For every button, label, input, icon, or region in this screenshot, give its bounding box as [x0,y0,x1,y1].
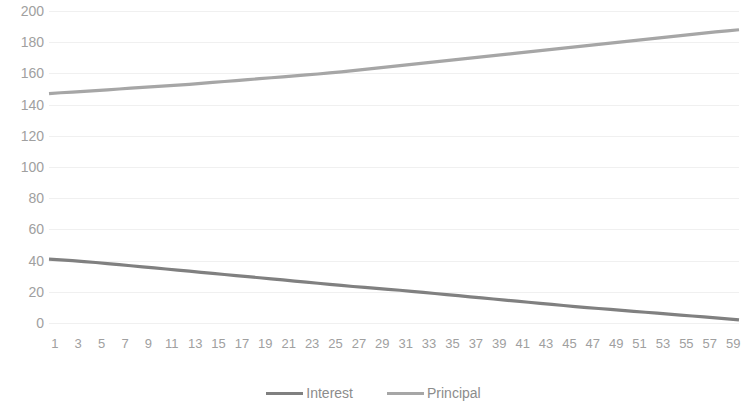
x-tick-label: 29 [375,336,389,352]
series-line-interest [49,259,739,320]
legend-entry-interest[interactable]: Interest [266,385,353,401]
y-tick-label: 80 [2,191,44,205]
x-tick-label: 21 [282,336,296,352]
x-tick-label: 15 [211,336,225,352]
x-tick-label: 43 [539,336,553,352]
x-tick-label: 23 [305,336,319,352]
x-tick-label: 33 [422,336,436,352]
line-chart: 200180160140120100806040200 135791113151… [0,0,747,411]
chart-legend: InterestPrincipal [0,382,747,404]
legend-label: Principal [427,385,481,401]
x-tick-label: 51 [632,336,646,352]
x-tick-label: 49 [609,336,623,352]
legend-swatch-icon [266,392,303,395]
legend-entry-principal[interactable]: Principal [387,385,481,401]
y-tick-label: 0 [2,316,44,330]
x-tick-label: 13 [188,336,202,352]
x-tick-label: 17 [235,336,249,352]
chart-title [0,0,747,6]
x-tick-label: 45 [562,336,576,352]
gridline [49,323,739,324]
x-tick-label: 5 [98,336,105,352]
x-tick-label: 35 [445,336,459,352]
y-tick-label: 160 [2,66,44,80]
y-tick-label: 200 [2,4,44,18]
legend-label: Interest [306,385,353,401]
y-tick-label: 40 [2,254,44,268]
y-tick-label: 120 [2,129,44,143]
x-tick-label: 9 [145,336,152,352]
series-line-principal [49,30,739,94]
x-tick-label: 57 [703,336,717,352]
x-tick-label: 37 [469,336,483,352]
x-tick-label: 31 [398,336,412,352]
x-tick-label: 25 [328,336,342,352]
y-tick-label: 140 [2,98,44,112]
series-container [49,11,739,323]
x-tick-label: 59 [726,336,740,352]
x-tick-label: 11 [165,336,179,352]
y-tick-label: 100 [2,160,44,174]
x-tick-label: 55 [679,336,693,352]
x-tick-label: 41 [515,336,529,352]
x-tick-label: 27 [352,336,366,352]
legend-swatch-icon [387,392,424,395]
x-tick-label: 7 [121,336,128,352]
x-tick-label: 39 [492,336,506,352]
plot-area [49,11,739,323]
x-tick-label: 19 [258,336,272,352]
x-tick-label: 53 [656,336,670,352]
y-tick-label: 60 [2,222,44,236]
y-tick-label: 180 [2,35,44,49]
x-tick-label: 1 [51,336,58,352]
y-axis: 200180160140120100806040200 [0,0,44,340]
y-tick-label: 20 [2,285,44,299]
x-axis: 1357911131517192123252729313335373941434… [49,336,739,356]
x-tick-label: 3 [75,336,82,352]
x-tick-label: 47 [586,336,600,352]
